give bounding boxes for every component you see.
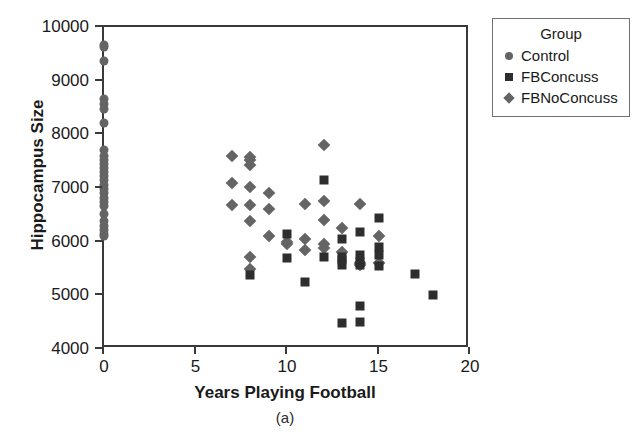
y-tick-label: 5000: [51, 285, 95, 305]
data-point-fbnoconcuss: [317, 214, 330, 227]
data-point-fbnoconcuss: [262, 230, 275, 243]
y-tick: 5000: [95, 293, 102, 295]
data-point-fbconcuss: [356, 228, 365, 237]
legend-item-control[interactable]: Control: [501, 45, 621, 66]
diamond-icon: [501, 94, 517, 102]
data-point-fbnoconcuss: [226, 199, 239, 212]
data-point-fbnoconcuss: [244, 215, 257, 228]
data-point-control: [100, 56, 109, 65]
legend: Group ControlFBConcussFBNoConcuss: [492, 18, 630, 117]
x-tick-label: 10: [278, 354, 297, 377]
data-point-fbconcuss: [319, 252, 328, 261]
data-point-control: [100, 43, 109, 52]
square-icon: [501, 73, 517, 81]
x-tick: 5: [194, 347, 196, 354]
x-tick: 20: [468, 347, 470, 354]
x-tick: 15: [377, 347, 379, 354]
y-tick: 7000: [95, 186, 102, 188]
data-point-fbnoconcuss: [372, 230, 385, 243]
data-point-fbnoconcuss: [299, 243, 312, 256]
data-point-fbconcuss: [356, 318, 365, 327]
data-point-fbnoconcuss: [354, 198, 367, 211]
x-tick-label: 20: [461, 354, 480, 377]
legend-entries: ControlFBConcussFBNoConcuss: [501, 45, 621, 108]
data-point-fbnoconcuss: [244, 250, 257, 263]
figure-caption: (a): [102, 409, 468, 426]
data-point-fbconcuss: [356, 261, 365, 270]
data-point-fbnoconcuss: [226, 176, 239, 189]
y-tick-label: 4000: [51, 339, 95, 359]
data-point-fbnoconcuss: [262, 187, 275, 200]
data-point-fbconcuss: [283, 229, 292, 238]
data-point-fbconcuss: [411, 269, 420, 278]
y-tick-label: 6000: [51, 232, 95, 252]
y-tick-label: 7000: [51, 178, 95, 198]
data-point-fbconcuss: [246, 270, 255, 279]
y-tick: 4000: [95, 347, 102, 349]
data-point-fbnoconcuss: [317, 195, 330, 208]
data-point-fbconcuss: [374, 261, 383, 270]
data-point-fbconcuss: [337, 234, 346, 243]
legend-item-label: FBConcuss: [517, 68, 599, 85]
x-tick: 10: [285, 347, 287, 354]
data-point-fbnoconcuss: [244, 199, 257, 212]
data-point-fbnoconcuss: [317, 139, 330, 152]
y-tick-label: 8000: [51, 124, 95, 144]
legend-item-label: Control: [517, 47, 569, 64]
plot-area: [102, 25, 468, 347]
data-point-fbnoconcuss: [336, 222, 349, 235]
x-tick: 0: [102, 347, 104, 354]
y-tick-label: 9000: [51, 71, 95, 91]
data-point-fbconcuss: [374, 251, 383, 260]
data-point-fbconcuss: [429, 290, 438, 299]
data-point-fbconcuss: [374, 213, 383, 222]
y-tick: 8000: [95, 132, 102, 134]
y-tick: 9000: [95, 79, 102, 81]
y-tick: 10000: [95, 25, 102, 27]
data-point-control: [100, 104, 109, 113]
data-point-fbconcuss: [337, 318, 346, 327]
data-point-fbnoconcuss: [262, 203, 275, 216]
data-point-fbconcuss: [337, 261, 346, 270]
data-point-fbconcuss: [283, 253, 292, 262]
y-axis-title: Hippocampus Size: [28, 45, 48, 305]
legend-item-fbconcuss[interactable]: FBConcuss: [501, 66, 621, 87]
legend-item-label: FBNoConcuss: [517, 89, 618, 106]
circle-icon: [501, 52, 517, 60]
y-tick: 6000: [95, 240, 102, 242]
data-point-fbnoconcuss: [299, 198, 312, 211]
data-points-layer: [104, 27, 466, 345]
x-tick-label: 5: [191, 354, 200, 377]
legend-title: Group: [501, 25, 621, 42]
x-axis-title: Years Playing Football: [102, 383, 468, 403]
x-tick-label: 15: [369, 354, 388, 377]
x-tick-label: 0: [99, 354, 108, 377]
data-point-fbconcuss: [301, 277, 310, 286]
data-point-fbnoconcuss: [226, 149, 239, 162]
legend-item-fbnoconcuss[interactable]: FBNoConcuss: [501, 87, 621, 108]
data-point-fbnoconcuss: [244, 181, 257, 194]
scatter-plot-figure: Hippocampus Size 40005000600070008000900…: [0, 0, 644, 436]
data-point-control: [100, 118, 109, 127]
data-point-fbconcuss: [356, 302, 365, 311]
data-point-fbconcuss: [319, 175, 328, 184]
y-tick-label: 10000: [42, 17, 95, 37]
